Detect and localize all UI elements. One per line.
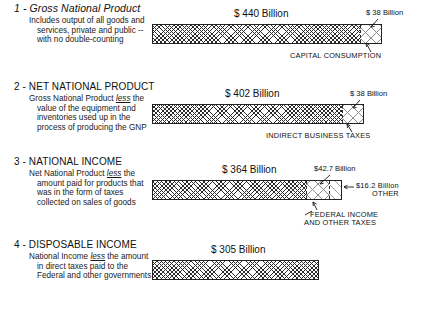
bar-segment-main [153, 181, 306, 199]
bar-segment-main [153, 25, 360, 43]
bar-area: $ 305 Billion [0, 239, 430, 317]
bar-segment-other [329, 181, 341, 199]
bar-main-value-label: $ 402 Billion [225, 88, 279, 99]
bar-segment-indirect-business-taxes [342, 105, 363, 123]
bar-segment-value-label: $ 38 Billion [350, 89, 387, 98]
bar-segment-other-label: OTHER [372, 190, 399, 199]
bar-callout-capital-consumption: CAPITAL CONSUMPTION [290, 52, 381, 61]
bar-segment-value-label: $ 38 Billion [366, 8, 403, 17]
bar-segment-capital-consumption [360, 25, 381, 43]
bar-national-income [152, 180, 342, 200]
bar-area: $ 364 Billion $42.7 Billion $16.2 Billio… [0, 156, 430, 234]
bar-segment-federal-income-and-other-taxes [306, 181, 329, 199]
bar-net-national-product [152, 104, 364, 124]
bar-disposable-income [152, 260, 319, 280]
bar-area: $ 440 Billion $ 38 Billion CAPITAL CONSU… [0, 2, 430, 80]
national-income-accounts-diagram: 1 - Gross National Product Includes outp… [0, 0, 430, 327]
bar-main-value-label: $ 440 Billion [234, 8, 288, 19]
bar-gross-national-product [152, 24, 382, 44]
bar-main-value-label: $ 364 Billion [222, 164, 276, 175]
bar-callout-federal-income-taxes-line2: AND OTHER TAXES [304, 219, 376, 228]
bar-callout-indirect-business-taxes: INDIRECT BUSINESS TAXES [266, 132, 370, 141]
bar-area: $ 402 Billion $ 38 Billion INDIRECT BUSI… [0, 81, 430, 159]
bar-main-value-label: $ 305 Billion [211, 244, 265, 255]
bar-segment-main [153, 105, 342, 123]
bar-segment-main [153, 261, 318, 279]
bar-segment-value-label: $42.7 Billion [314, 164, 355, 173]
